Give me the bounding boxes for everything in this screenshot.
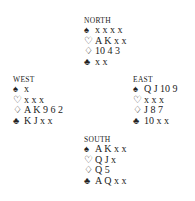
hand-label: WEST xyxy=(13,75,63,84)
heart-icon: ♡ xyxy=(133,95,144,106)
diamond-icon: ♢ xyxy=(84,165,95,176)
clubs-row: ♣K J x x xyxy=(13,116,63,127)
spade-icon: ♠ xyxy=(84,144,95,155)
hearts-cards: Q J x xyxy=(95,154,116,165)
west-hand: WEST ♠x ♡x x x ♢A K 9 6 2 ♣K J x x xyxy=(13,75,63,126)
club-icon: ♣ xyxy=(84,57,95,68)
heart-icon: ♡ xyxy=(13,95,24,106)
clubs-row: ♣A Q x x xyxy=(84,176,126,187)
hearts-cards: x x x xyxy=(24,94,44,105)
diamonds-cards: Q 5 xyxy=(95,164,110,175)
clubs-row: ♣10 x x xyxy=(133,116,178,127)
hearts-cards: x x x xyxy=(144,94,164,105)
south-hand: SOUTH ♠A K x x ♡Q J x ♢Q 5 ♣A Q x x xyxy=(84,135,126,186)
clubs-cards: x x xyxy=(95,56,108,67)
east-hand: EAST ♠Q J 10 9 ♡x x x ♢J 8 7 ♣10 x x xyxy=(133,75,178,126)
club-icon: ♣ xyxy=(133,116,144,127)
diamonds-cards: A K 9 6 2 xyxy=(24,104,63,115)
diamond-icon: ♢ xyxy=(13,105,24,116)
spades-cards: x x x x xyxy=(95,24,123,35)
spades-cards: A K x x xyxy=(95,143,126,154)
clubs-row: ♣x x xyxy=(84,57,126,68)
diamond-icon: ♢ xyxy=(84,46,95,57)
diamond-icon: ♢ xyxy=(133,105,144,116)
heart-icon: ♡ xyxy=(84,36,95,47)
spade-icon: ♠ xyxy=(13,84,24,95)
clubs-cards: 10 x x xyxy=(144,115,169,126)
club-icon: ♣ xyxy=(84,176,95,187)
club-icon: ♣ xyxy=(13,116,24,127)
hearts-cards: A K x x xyxy=(95,35,126,46)
clubs-cards: A Q x x xyxy=(95,175,126,186)
diamonds-cards: 10 4 3 xyxy=(95,45,120,56)
north-hand: NORTH ♠x x x x ♡A K x x ♢10 4 3 ♣x x xyxy=(84,16,126,67)
diamonds-cards: J 8 7 xyxy=(144,104,163,115)
clubs-cards: K J x x xyxy=(24,115,53,126)
spades-cards: x xyxy=(24,83,29,94)
heart-icon: ♡ xyxy=(84,155,95,166)
spade-icon: ♠ xyxy=(133,84,144,95)
spades-cards: Q J 10 9 xyxy=(144,83,178,94)
spade-icon: ♠ xyxy=(84,25,95,36)
